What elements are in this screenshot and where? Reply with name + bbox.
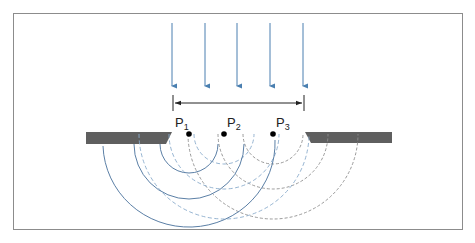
point-p2: [221, 131, 227, 137]
slit-width-marker: [173, 95, 304, 111]
barrier-left: [86, 132, 172, 144]
p3-wavelets: [188, 134, 358, 219]
point-p1: [186, 131, 192, 137]
label-p2: P2: [227, 115, 241, 132]
barrier-right: [305, 132, 392, 143]
diffraction-diagram: P1 P2 P3: [0, 0, 475, 243]
point-p3: [270, 131, 276, 137]
source-points: [186, 131, 276, 137]
label-p3: P3: [276, 115, 290, 132]
p2-wavelets: [139, 134, 309, 219]
incident-wave-arrows: [172, 23, 303, 86]
label-p1: P1: [175, 115, 189, 132]
